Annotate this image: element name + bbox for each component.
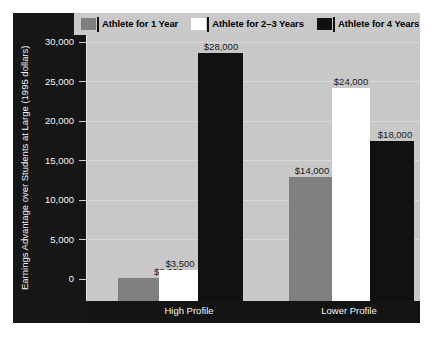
legend-divider (207, 17, 209, 32)
y-tick-mark (79, 160, 86, 161)
chart-figure: Earnings Advantage over Students at Larg… (13, 13, 420, 323)
y-tick-label: 25,000 (23, 77, 74, 87)
x-axis-category-high-profile: High Profile (134, 306, 244, 316)
y-tick-mark (79, 42, 86, 43)
bar-lower-profile-athlete-4-years[interactable] (370, 141, 414, 301)
y-tick-mark (79, 81, 86, 82)
legend-swatch-icon (191, 18, 206, 30)
legend-entry-athlete-4-years[interactable]: Athlete for 4 Years (317, 13, 419, 35)
bar-value-label: $18,000 (367, 130, 423, 140)
legend-entry-athlete-2-3-years[interactable]: Athlete for 2–3 Years (191, 13, 304, 35)
legend-label: Athlete for 2–3 Years (212, 19, 304, 29)
y-tick-label: 0 (23, 274, 74, 284)
bar-value-label: $28,000 (193, 42, 249, 52)
y-tick-mark (79, 239, 86, 240)
y-tick-mark (79, 200, 86, 201)
legend-swatch-icon (81, 18, 96, 30)
legend-divider (97, 17, 99, 32)
legend-swatch-icon (317, 18, 332, 30)
bar-value-label: $3,500 (157, 259, 203, 269)
y-tick-label: 5,000 (23, 235, 74, 245)
y-tick-mark (79, 121, 86, 122)
bar-high-profile-athlete-2-3-years[interactable] (159, 270, 200, 301)
legend-label: Athlete for 1 Year (102, 19, 178, 29)
y-tick-label: 30,000 (23, 37, 74, 47)
plot-area: $2,600 $3,500 $28,000 $14,000 $24,000 $1… (86, 35, 420, 301)
x-axis-category-lower-profile: Lower Profile (294, 306, 404, 316)
legend-entry-athlete-1-year[interactable]: Athlete for 1 Year (81, 13, 178, 35)
gridline (86, 42, 420, 43)
y-tick-label: 20,000 (23, 116, 74, 126)
bar-lower-profile-athlete-2-3-years[interactable] (332, 88, 370, 301)
y-tick-label: 15,000 (23, 156, 74, 166)
legend-label: Athlete for 4 Years (338, 19, 419, 29)
bar-lower-profile-athlete-1-year[interactable] (289, 177, 334, 301)
bar-value-label: $24,000 (323, 77, 379, 87)
y-tick-label: 10,000 (23, 195, 74, 205)
legend-divider (333, 17, 335, 32)
chart-legend: Athlete for 1 Year Athlete for 2–3 Years… (74, 13, 420, 35)
x-axis-band: High Profile Lower Profile (86, 301, 420, 323)
y-tick-mark (79, 279, 86, 280)
bar-high-profile-athlete-4-years[interactable] (198, 53, 243, 301)
bar-high-profile-athlete-1-year[interactable] (118, 278, 159, 301)
y-axis-line (86, 35, 87, 301)
